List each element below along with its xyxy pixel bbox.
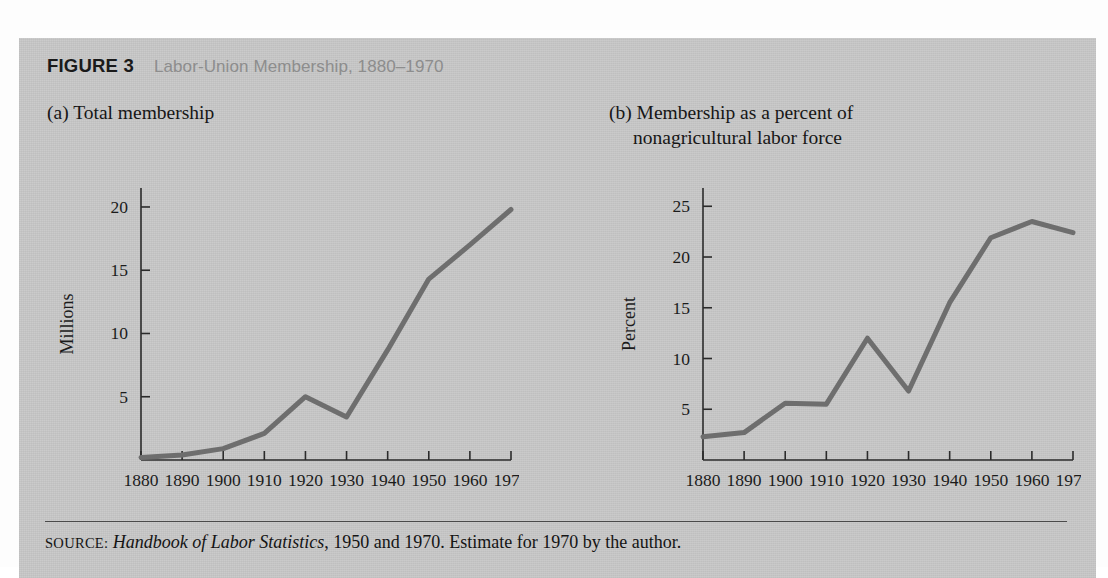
x-tick-label: 1890 — [165, 470, 200, 490]
x-tick-label: 1920 — [288, 470, 323, 490]
x-tick-label: 1900 — [206, 470, 241, 490]
x-tick-label: 1950 — [973, 470, 1008, 490]
x-tick-label: 1970 — [494, 470, 520, 490]
x-tick-label: 1970 — [1056, 470, 1082, 490]
x-tick-label: 1920 — [850, 470, 885, 490]
x-tick-label: 1910 — [247, 470, 282, 490]
panel-b-caption-line2: nonagricultural labor force — [609, 126, 1009, 151]
y-tick-label: 5 — [119, 387, 128, 407]
x-tick-label: 1880 — [686, 470, 721, 490]
source-detail: , 1950 and 1970. Estimate for 1970 by th… — [324, 532, 681, 552]
chart-membership-percent: 5101520251880189019001910192019301940195… — [611, 178, 1081, 508]
x-tick-label: 1950 — [411, 470, 446, 490]
y-axis-title: Millions — [57, 293, 77, 354]
source-divider — [45, 521, 1067, 522]
y-tick-label: 15 — [673, 298, 691, 318]
x-tick-label: 1930 — [329, 470, 364, 490]
figure-header: FIGURE 3 Labor-Union Membership, 1880–19… — [47, 55, 444, 77]
panel-b-caption-line1: (b) Membership as a percent of — [609, 101, 1009, 126]
data-line — [703, 221, 1073, 436]
figure-title: Labor-Union Membership, 1880–1970 — [154, 57, 444, 77]
y-tick-label: 25 — [673, 196, 691, 216]
y-tick-label: 20 — [673, 247, 691, 267]
x-tick-label: 1900 — [768, 470, 803, 490]
x-tick-label: 1890 — [727, 470, 762, 490]
chart-a-svg: 5101520188018901900191019201930194019501… — [49, 178, 519, 508]
data-line — [141, 210, 511, 458]
chart-total-membership: 5101520188018901900191019201930194019501… — [49, 178, 519, 508]
y-tick-label: 5 — [681, 399, 690, 419]
y-tick-label: 10 — [111, 323, 129, 343]
x-tick-label: 1880 — [124, 470, 159, 490]
x-tick-label: 1960 — [1014, 470, 1049, 490]
figure-panel: FIGURE 3 Labor-Union Membership, 1880–19… — [19, 38, 1096, 578]
x-tick-label: 1940 — [932, 470, 967, 490]
y-tick-label: 10 — [673, 349, 691, 369]
x-tick-label: 1930 — [891, 470, 926, 490]
source-publication: Handbook of Labor Statistics — [113, 532, 325, 552]
chart-b-svg: 5101520251880189019001910192019301940195… — [611, 178, 1081, 508]
panel-b-caption: (b) Membership as a percent of nonagricu… — [609, 101, 1009, 151]
source-note: SOURCE: Handbook of Labor Statistics, 19… — [45, 532, 681, 553]
panel-a-caption: (a) Total membership — [47, 101, 214, 126]
y-tick-label: 15 — [111, 260, 129, 280]
y-axis-title: Percent — [619, 297, 639, 351]
figure-number: FIGURE 3 — [47, 55, 134, 77]
y-tick-label: 20 — [111, 197, 129, 217]
x-tick-label: 1960 — [452, 470, 487, 490]
source-kicker: SOURCE: — [45, 535, 108, 551]
x-tick-label: 1940 — [370, 470, 405, 490]
x-tick-label: 1910 — [809, 470, 844, 490]
